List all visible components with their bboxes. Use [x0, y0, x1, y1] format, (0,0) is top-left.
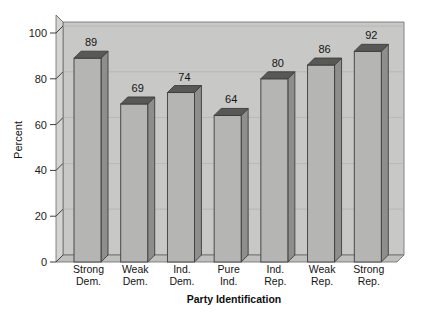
bar-value-label: 86 — [318, 43, 330, 55]
y-axis-title: Percent — [12, 121, 24, 159]
bar-value-label: 74 — [178, 71, 190, 83]
x-tick-label: StrongRep. — [353, 263, 384, 287]
bar — [261, 72, 295, 262]
bar-side-face — [288, 72, 295, 262]
bar-value-label: 92 — [365, 29, 377, 41]
x-tick-label: Ind.Dem. — [169, 263, 194, 287]
bar-front-face — [167, 93, 194, 262]
bar-front-face — [74, 58, 101, 262]
bar-value-label: 69 — [132, 82, 144, 94]
y-tick-label: 0 — [41, 256, 47, 268]
bar — [121, 97, 155, 262]
bar-side-face — [148, 97, 155, 262]
y-tick-label: 100 — [29, 27, 47, 39]
chart-canvas: 020406080100 89697464808692 StrongDem.We… — [0, 0, 429, 318]
y-tick-label: 80 — [35, 73, 47, 85]
bar-value-label: 64 — [225, 93, 237, 105]
x-tick-label: PureInd. — [218, 263, 240, 287]
bar — [354, 44, 388, 262]
bar-side-face — [101, 51, 108, 262]
x-tick-label: Ind.Rep. — [264, 263, 286, 287]
bar-side-face — [194, 86, 201, 262]
bar-front-face — [308, 65, 335, 262]
x-axis-title: Party Identification — [187, 293, 282, 305]
bar-side-face — [335, 58, 342, 262]
y-tick-label: 60 — [35, 119, 47, 131]
x-tick-label: WeakRep. — [309, 263, 336, 287]
bar-front-face — [121, 104, 148, 262]
bar — [74, 51, 108, 262]
bar — [308, 58, 342, 262]
y-tick-label: 40 — [35, 164, 47, 176]
bar-front-face — [354, 51, 381, 262]
bar-front-face — [214, 115, 241, 262]
bar — [167, 86, 201, 262]
bar-value-label: 80 — [272, 57, 284, 69]
y-tick-label: 20 — [35, 210, 47, 222]
bar-value-label: 89 — [85, 36, 97, 48]
panel-left-wall — [56, 15, 63, 262]
x-tick-label: StrongDem. — [73, 263, 104, 287]
x-axis-labels: StrongDem.WeakDem.Ind.Dem.PureInd.Ind.Re… — [73, 263, 384, 287]
x-tick-label: WeakDem. — [122, 263, 149, 287]
bar — [214, 108, 248, 262]
bar-side-face — [381, 44, 388, 262]
bar-front-face — [261, 79, 288, 262]
bar-chart: 020406080100 89697464808692 StrongDem.We… — [0, 0, 429, 318]
bar-side-face — [241, 108, 248, 262]
